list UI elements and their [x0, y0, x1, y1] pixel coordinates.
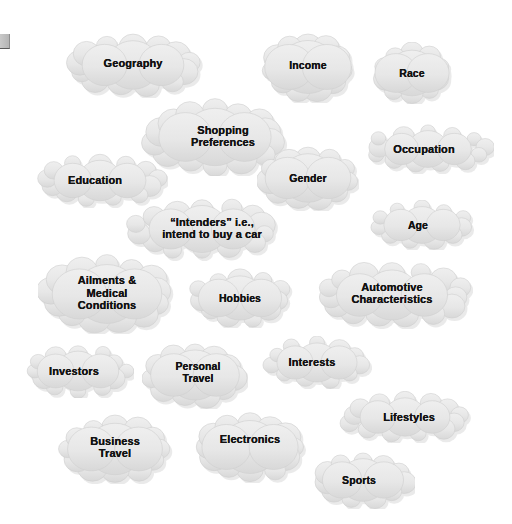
cloud-investors[interactable]: Investors — [22, 344, 134, 398]
cloud-label-intenders: “Intenders” i.e., intend to buy a car — [162, 216, 262, 241]
cloud-diagram-canvas: GeographyIncomeRaceShopping PreferencesO… — [0, 0, 512, 524]
cloud-intenders[interactable]: “Intenders” i.e., intend to buy a car — [124, 197, 280, 261]
cloud-label-education: Education — [68, 174, 122, 187]
cloud-label-business-travel: Business Travel — [90, 435, 140, 460]
cloud-age[interactable]: Age — [369, 200, 475, 250]
cloud-label-shopping: Shopping Preferences — [191, 124, 255, 149]
cloud-ailments[interactable]: Ailments & Medical Conditions — [38, 254, 176, 334]
cloud-label-age: Age — [408, 219, 428, 232]
cloud-label-ailments: Ailments & Medical Conditions — [78, 274, 136, 312]
cloud-electronics[interactable]: Electronics — [191, 411, 309, 483]
cloud-label-electronics: Electronics — [220, 433, 280, 446]
cloud-race[interactable]: Race — [372, 42, 452, 104]
cloud-shape-electronics — [191, 411, 309, 483]
cloud-label-gender: Gender — [289, 172, 326, 185]
cloud-label-investors: Investors — [49, 365, 99, 378]
cloud-label-personal-travel: Personal Travel — [175, 360, 220, 385]
cloud-label-geography: Geography — [104, 57, 163, 70]
cloud-label-race: Race — [399, 67, 425, 80]
cloud-interests[interactable]: Interests — [262, 336, 372, 389]
cloud-business-travel[interactable]: Business Travel — [56, 414, 174, 484]
page-corner-mark-icon — [0, 34, 10, 49]
cloud-label-occupation: Occupation — [393, 143, 455, 156]
cloud-label-automotive: Automotive Characteristics — [352, 281, 433, 306]
cloud-label-sports: Sports — [342, 474, 376, 487]
cloud-income[interactable]: Income — [261, 31, 355, 103]
cloud-automotive[interactable]: Automotive Characteristics — [311, 261, 473, 329]
cloud-personal-travel[interactable]: Personal Travel — [142, 341, 248, 409]
cloud-hobbies[interactable]: Hobbies — [187, 268, 293, 328]
cloud-occupation[interactable]: Occupation — [362, 124, 494, 174]
cloud-label-lifestyles: Lifestyles — [383, 411, 435, 424]
cloud-label-interests: Interests — [289, 356, 336, 369]
cloud-label-income: Income — [289, 59, 326, 72]
cloud-lifestyles[interactable]: Lifestyles — [337, 391, 473, 443]
cloud-geography[interactable]: Geography — [62, 32, 204, 98]
cloud-sports[interactable]: Sports — [311, 451, 415, 509]
cloud-label-hobbies: Hobbies — [219, 292, 261, 305]
